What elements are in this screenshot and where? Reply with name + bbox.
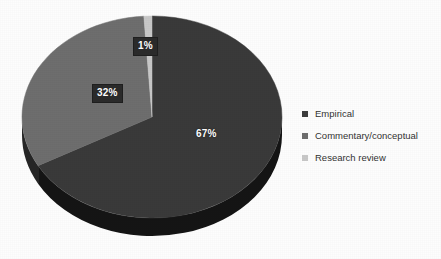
legend-item-label: Commentary/conceptual bbox=[315, 131, 418, 141]
slice-data-label-research-review: 1% bbox=[133, 37, 158, 56]
slice-data-label-commentary: 32% bbox=[92, 84, 123, 103]
legend-swatch-icon bbox=[302, 155, 308, 161]
legend-swatch-icon bbox=[302, 133, 308, 139]
legend-item-empirical[interactable]: Empirical bbox=[302, 103, 438, 125]
chart-legend: Empirical Commentary/conceptual Research… bbox=[302, 103, 438, 169]
legend-item-label: Research review bbox=[315, 153, 386, 163]
legend-item-commentary-conceptual[interactable]: Commentary/conceptual bbox=[302, 125, 438, 147]
slice-data-label-empirical: 67% bbox=[196, 129, 217, 139]
legend-swatch-icon bbox=[302, 111, 308, 117]
legend-item-label: Empirical bbox=[315, 109, 354, 119]
pie-chart: 1% 32% 67% Empirical Commentary/conceptu… bbox=[0, 0, 441, 259]
legend-item-research-review[interactable]: Research review bbox=[302, 147, 438, 169]
pie-plot-area: 1% 32% 67% bbox=[0, 0, 300, 259]
